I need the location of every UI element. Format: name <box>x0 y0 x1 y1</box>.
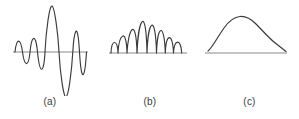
panel-a-plot <box>0 0 100 96</box>
panel-c-plot <box>200 0 299 96</box>
panel-a-waveform <box>15 6 87 96</box>
panel-a-wave-packet: (a) <box>0 0 100 119</box>
panel-c-envelope: (c) <box>200 0 299 119</box>
signal-processing-figure: (a) (b) (c) <box>0 0 299 119</box>
panel-b-plot <box>100 0 200 96</box>
panel-b-rectified-lobes <box>111 21 182 53</box>
panel-c-caption: (c) <box>200 96 299 108</box>
panel-b-caption: (b) <box>100 96 200 108</box>
panel-a-caption: (a) <box>0 96 100 108</box>
panel-c-envelope-curve <box>208 16 286 51</box>
panel-b-rectified: (b) <box>100 0 200 119</box>
